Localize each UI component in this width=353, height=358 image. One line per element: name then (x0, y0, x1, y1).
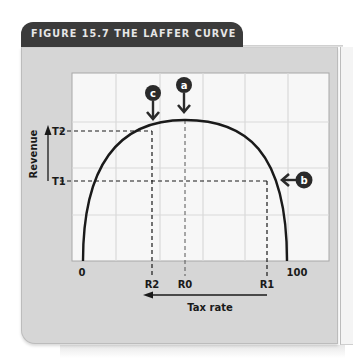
x-tick-0: 0 (79, 267, 86, 278)
x-tick-r2: R2 (145, 279, 160, 290)
marker-a-label: a (181, 80, 188, 91)
plot-area (72, 73, 329, 261)
x-tick-100: 100 (287, 267, 308, 278)
t1-label: T1 (52, 176, 66, 187)
y-axis-label: Revenue (28, 129, 39, 178)
marker-b-label: b (300, 175, 307, 186)
tax-rate-arrow (143, 292, 267, 299)
marker-c-label: c (150, 88, 156, 99)
x-tick-r0: R0 (178, 279, 193, 290)
x-axis-label: Tax rate (187, 302, 233, 313)
revenue-arrow (45, 125, 52, 181)
t2-label: T2 (52, 126, 66, 137)
x-tick-r1: R1 (260, 279, 275, 290)
laffer-chart: Revenue T2 T1 0 100 R2 R0 R1 Tax rate a … (0, 0, 353, 358)
